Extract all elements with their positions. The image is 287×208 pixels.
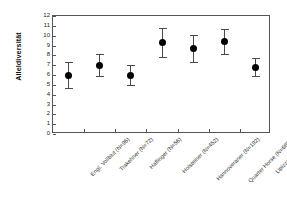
y-axis-tick-label: 7 <box>36 61 50 67</box>
x-axis-tick-mark <box>84 129 85 132</box>
y-axis-tick-label: 1 <box>36 120 50 126</box>
x-axis-tick-mark <box>209 129 210 132</box>
y-axis-tick-mark <box>53 46 56 47</box>
y-axis-tick-label: 4 <box>36 91 50 97</box>
data-point-marker[interactable] <box>127 72 134 79</box>
y-axis-tick-mark <box>53 124 56 125</box>
error-bar-cap-upper <box>190 35 198 36</box>
y-axis-tick-mark <box>53 134 56 135</box>
y-axis-tick-label: 2 <box>36 110 50 116</box>
y-axis-tick-mark <box>53 16 56 17</box>
y-axis-tick-mark <box>53 114 56 115</box>
error-bar-cap-upper <box>127 65 135 66</box>
y-axis-tick-mark <box>53 65 56 66</box>
y-axis-tick-label: 5 <box>36 81 50 87</box>
y-axis-tick-label: 0 <box>36 130 50 136</box>
data-point-marker[interactable] <box>252 64 259 71</box>
x-axis-tick-mark <box>240 129 241 132</box>
y-axis-tick-label: 6 <box>36 71 50 77</box>
error-bar-cap-upper <box>65 62 73 63</box>
error-bar-cap-lower <box>127 85 135 86</box>
plot-area <box>52 15 270 133</box>
error-bar-cap-lower <box>159 57 167 58</box>
y-axis-tick-mark <box>53 85 56 86</box>
error-bar-cap-lower <box>221 54 229 55</box>
y-axis-tick-label: 8 <box>36 51 50 57</box>
data-point-marker[interactable] <box>159 39 166 46</box>
error-bar-cap-upper <box>96 54 104 55</box>
y-axis-tick-label: 11 <box>36 22 50 28</box>
y-axis-tick-label: 3 <box>36 101 50 107</box>
error-bar-cap-lower <box>65 88 73 89</box>
x-axis-category-label: Holsteiner (N=452) <box>181 136 219 174</box>
error-bar-cap-lower <box>96 76 104 77</box>
x-axis-category-label: Engl. Vollblut (N=96) <box>89 136 130 177</box>
x-axis-tick-mark <box>115 129 116 132</box>
y-axis-tick-mark <box>53 55 56 56</box>
data-point-marker[interactable] <box>96 62 103 69</box>
y-axis-tick-mark <box>53 95 56 96</box>
y-axis-tick-mark <box>53 26 56 27</box>
y-axis-tick-label: 10 <box>36 32 50 38</box>
y-axis-tick-mark <box>53 36 56 37</box>
y-axis-tick-mark <box>53 75 56 76</box>
error-bar-cap-lower <box>190 62 198 63</box>
data-point-marker[interactable] <box>221 38 228 45</box>
x-axis-tick-mark <box>178 129 179 132</box>
chart-figure: Alleldiversität 0123456789101112 Engl. V… <box>0 0 287 208</box>
error-bar-cap-upper <box>221 29 229 30</box>
error-bar-cap-lower <box>252 76 260 77</box>
data-point-marker[interactable] <box>65 72 72 79</box>
y-axis-title: Alleldiversität <box>14 17 23 97</box>
x-axis-tick-mark <box>146 129 147 132</box>
error-bar-cap-upper <box>252 58 260 59</box>
y-axis-tick-mark <box>53 105 56 106</box>
y-axis-tick-label: 9 <box>36 42 50 48</box>
error-bar-cap-upper <box>159 28 167 29</box>
y-axis-tick-label: 12 <box>36 12 50 18</box>
data-point-marker[interactable] <box>190 45 197 52</box>
